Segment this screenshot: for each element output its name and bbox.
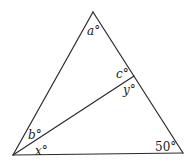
triangle-diagram: a° c° y° b° x° 50° [0,0,194,167]
angle-label-y: y° [122,83,136,97]
angle-label-a: a° [87,24,100,38]
cevian-line [13,76,134,155]
angle-label-c: c° [116,67,129,81]
angle-label-50: 50° [155,140,176,154]
angle-label-b: b° [28,128,42,142]
left-side [13,12,93,155]
right-side [93,12,183,153]
angle-label-x: x° [35,144,48,158]
